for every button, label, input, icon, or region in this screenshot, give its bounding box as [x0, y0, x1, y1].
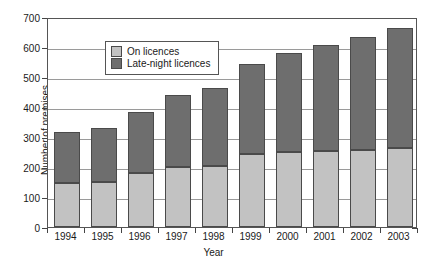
legend-item-on-licences: On licences: [111, 46, 210, 57]
bar-segment-late-night-licences: [128, 112, 154, 173]
x-tick-label: 2001: [313, 231, 335, 242]
legend-item-late-night-licences: Late-night licences: [111, 58, 210, 69]
legend-label-on-licences: On licences: [127, 46, 179, 57]
x-tick-mark: [121, 228, 122, 233]
bar-segment-on-licences: [276, 152, 302, 227]
x-tick-mark: [47, 228, 48, 233]
x-tick-label: 1994: [54, 231, 76, 242]
legend: On licences Late-night licences: [105, 41, 219, 75]
x-tick-mark: [232, 228, 233, 233]
bar-segment-late-night-licences: [91, 128, 117, 182]
x-tick-mark: [417, 228, 418, 233]
bar-segment-late-night-licences: [350, 37, 376, 150]
bar-segment-on-licences: [128, 173, 154, 227]
bar-segment-late-night-licences: [54, 132, 80, 183]
plot-area: On licences Late-night licences: [47, 18, 417, 228]
x-tick-mark: [158, 228, 159, 233]
bar-segment-on-licences: [165, 167, 191, 227]
bar-2001: [313, 45, 339, 227]
bar-segment-late-night-licences: [202, 88, 228, 166]
x-tick-mark: [306, 228, 307, 233]
x-tick-mark: [195, 228, 196, 233]
bar-1999: [239, 64, 265, 228]
x-tick-mark: [343, 228, 344, 233]
x-axis-title: Year: [0, 247, 435, 258]
bar-segment-on-licences: [91, 182, 117, 227]
bar-segment-late-night-licences: [387, 28, 413, 148]
x-tick-label: 1996: [128, 231, 150, 242]
bar-1995: [91, 128, 117, 227]
x-tick-label: 2000: [276, 231, 298, 242]
x-tick-label: 1999: [239, 231, 261, 242]
bar-segment-late-night-licences: [276, 53, 302, 152]
bar-1996: [128, 112, 154, 227]
x-tick-mark: [84, 228, 85, 233]
bar-segment-on-licences: [350, 150, 376, 227]
x-tick-label: 1997: [165, 231, 187, 242]
bar-segment-late-night-licences: [313, 45, 339, 152]
x-axis-title-text: Year: [203, 247, 223, 258]
bar-chart: Number of premises 010020030040050060070…: [0, 0, 435, 269]
x-tick-label: 2002: [350, 231, 372, 242]
bar-segment-on-licences: [313, 151, 339, 227]
bar-segment-on-licences: [202, 166, 228, 228]
bar-2002: [350, 37, 376, 227]
bar-1998: [202, 88, 228, 228]
bar-2003: [387, 28, 413, 228]
bar-segment-on-licences: [239, 154, 265, 227]
bar-1994: [54, 132, 80, 227]
bar-segment-on-licences: [54, 183, 80, 227]
legend-swatch-on-licences: [111, 46, 122, 57]
bar-segment-on-licences: [387, 148, 413, 228]
bar-1997: [165, 95, 191, 227]
x-tick-mark: [269, 228, 270, 233]
x-tick-label: 2003: [387, 231, 409, 242]
x-tick-label: 1995: [91, 231, 113, 242]
bar-2000: [276, 53, 302, 227]
x-tick-mark: [380, 228, 381, 233]
legend-label-late-night-licences: Late-night licences: [127, 58, 210, 69]
x-tick-label: 1998: [202, 231, 224, 242]
bar-segment-late-night-licences: [239, 64, 265, 155]
bar-segment-late-night-licences: [165, 95, 191, 167]
legend-swatch-late-night-licences: [111, 58, 122, 69]
